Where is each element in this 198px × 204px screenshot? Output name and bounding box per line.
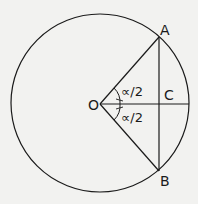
label-A: A: [160, 22, 170, 38]
circle: [11, 14, 189, 192]
label-angle-lower: ∝/2: [121, 110, 143, 125]
label-B: B: [160, 173, 170, 189]
angle-arc-upper: [114, 88, 120, 104]
label-O: O: [88, 97, 99, 113]
angle-arc-lower: [114, 104, 120, 120]
label-C: C: [164, 87, 174, 103]
geometry-diagram: A B C O ∝/2 ∝/2: [0, 0, 198, 204]
label-angle-upper: ∝/2: [121, 84, 143, 99]
